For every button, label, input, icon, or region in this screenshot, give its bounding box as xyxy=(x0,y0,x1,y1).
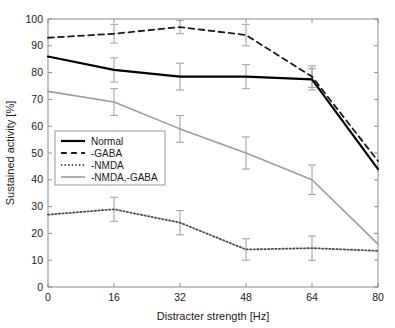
x-tick-label: 64 xyxy=(306,291,318,303)
legend-label-3: -NMDA xyxy=(91,160,124,171)
series-line--nmda xyxy=(48,209,378,251)
y-tick-label: 0 xyxy=(37,281,43,293)
legend-label-1: Normal xyxy=(91,136,123,147)
x-tick-label: 48 xyxy=(240,291,252,303)
y-tick-label: 30 xyxy=(31,200,43,212)
line-chart: 01632486480 0102030405060708090100 Norma… xyxy=(0,0,395,328)
y-tick-label: 10 xyxy=(31,254,43,266)
legend-label-4: -NMDA,-GABA xyxy=(91,172,158,183)
y-tick-label: 20 xyxy=(31,227,43,239)
y-tick-label: 50 xyxy=(31,147,43,159)
figure-container: 01632486480 0102030405060708090100 Norma… xyxy=(0,0,395,328)
x-tick-label: 16 xyxy=(108,291,120,303)
x-axis-label: Distracter strength [Hz] xyxy=(157,310,269,322)
y-tick-label: 60 xyxy=(31,120,43,132)
y-tick-label: 90 xyxy=(31,39,43,51)
x-tick-label: 32 xyxy=(174,291,186,303)
x-tick-label: 80 xyxy=(372,291,384,303)
x-tick-label: 0 xyxy=(45,291,51,303)
y-tick-label: 70 xyxy=(31,93,43,105)
y-tick-label: 40 xyxy=(31,173,43,185)
y-tick-label: 100 xyxy=(25,13,43,25)
y-tick-label: 80 xyxy=(31,66,43,78)
chart-legend: Normal-GABA-NMDA-NMDA,-GABA xyxy=(55,131,165,185)
y-axis-label: Sustained activity [%] xyxy=(4,101,16,206)
legend-label-2: -GABA xyxy=(91,148,122,159)
